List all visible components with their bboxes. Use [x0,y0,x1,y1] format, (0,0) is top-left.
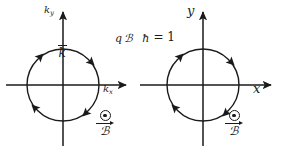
equation-numerator: qℬ [113,32,135,46]
axis-label-y: y [187,4,194,17]
real-space-axes-and-orbit [143,0,285,152]
panel-momentum-space: ky kx k ℬ [0,0,142,152]
magnetic-field-marker-real: ℬ [217,110,251,137]
axis-label-kx: kx [103,84,113,95]
k-vector-label: k [58,47,66,59]
physics-orbit-figure: ky kx k ℬ qℬ ħ = 1 [0,0,285,152]
vector-arrow-icon [225,121,243,125]
panel-real-space: y x ℬ [143,0,285,152]
magnetic-field-marker-momentum: ℬ [88,110,122,137]
field-out-of-page-icon [100,110,111,121]
axis-label-ky: ky [44,5,54,16]
axis-label-x: x [253,82,260,95]
field-out-of-page-icon [229,110,240,121]
magnetic-field-vector-label: ℬ [95,125,115,137]
magnetic-field-vector-label: ℬ [224,125,244,137]
vector-arrow-icon [96,121,114,125]
